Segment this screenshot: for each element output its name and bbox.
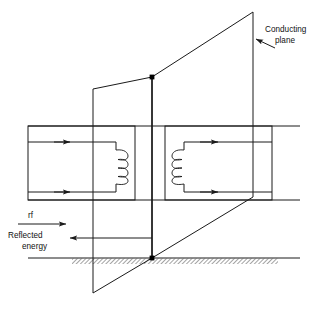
ground-plane bbox=[28, 258, 300, 264]
right-coil-turn-2 bbox=[172, 159, 182, 168]
right-loop-coil bbox=[172, 150, 184, 185]
left-coil-turn-1 bbox=[116, 150, 128, 160]
junction-dot-top bbox=[150, 75, 155, 80]
left-coil-turn-4 bbox=[116, 176, 128, 184]
left-loop-top-wire bbox=[28, 142, 116, 150]
conducting-plane-label-line1: Conducting bbox=[265, 25, 307, 34]
left-coil-turn-3 bbox=[118, 168, 128, 177]
left-coupling-loop bbox=[28, 126, 135, 200]
right-coupling-loop bbox=[165, 126, 272, 200]
conducting-plane-parallelogram bbox=[152, 12, 253, 258]
reflected-energy-label-line1: Reflected bbox=[8, 231, 43, 240]
conducting-plane-leader-arrow bbox=[256, 39, 275, 48]
left-coil-turn-2 bbox=[118, 159, 128, 168]
rf-label: rf bbox=[28, 211, 34, 220]
left-loop-box bbox=[28, 126, 135, 200]
conducting-plane-label-line2: plane bbox=[275, 36, 295, 45]
left-loop-bottom-wire bbox=[28, 184, 116, 192]
waveguide-guide-lines bbox=[28, 126, 300, 200]
conducting-plane-outline bbox=[152, 12, 253, 258]
ground-hatch bbox=[72, 259, 278, 264]
left-loop-coil bbox=[116, 150, 128, 185]
figure-canvas: Conducting plane rf Reflected energy bbox=[0, 0, 322, 309]
right-loop-box bbox=[165, 126, 272, 200]
right-coil-turn-4 bbox=[172, 176, 184, 184]
junction-dot-bottom bbox=[150, 256, 155, 261]
reflected-energy-label-line2: energy bbox=[22, 242, 48, 251]
right-coil-turn-1 bbox=[172, 150, 184, 160]
right-loop-bottom-wire bbox=[184, 184, 272, 192]
right-coil-turn-3 bbox=[172, 168, 182, 177]
technical-diagram: Conducting plane rf Reflected energy bbox=[0, 0, 322, 309]
right-loop-top-wire bbox=[184, 142, 272, 150]
